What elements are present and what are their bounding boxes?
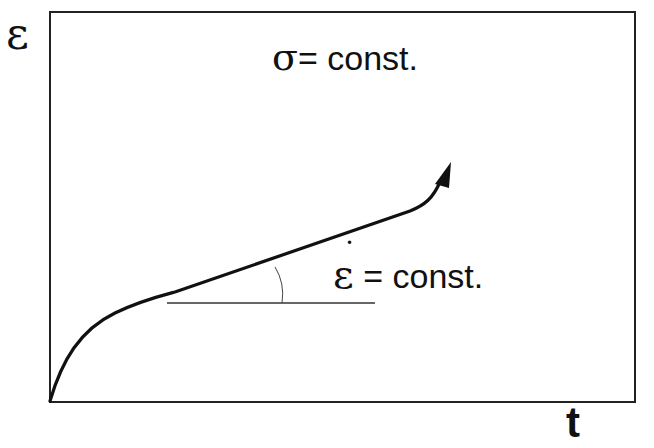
- dot-accent: ˙: [342, 239, 357, 269]
- stress-annotation-text: = const.: [298, 39, 418, 77]
- stress-annotation: σ= const.: [272, 38, 418, 76]
- sigma-symbol: σ: [272, 35, 298, 79]
- x-axis-label: t: [566, 402, 580, 444]
- arrow-head-icon: [435, 162, 451, 188]
- strain-rate-annotation: ε˙ = const.: [333, 254, 483, 294]
- slope-angle-arc: [275, 267, 283, 303]
- strain-rate-annotation-text: = const.: [363, 257, 483, 295]
- y-axis-label: ε: [6, 12, 29, 56]
- epsilon-dot-symbol: ε˙: [333, 251, 354, 297]
